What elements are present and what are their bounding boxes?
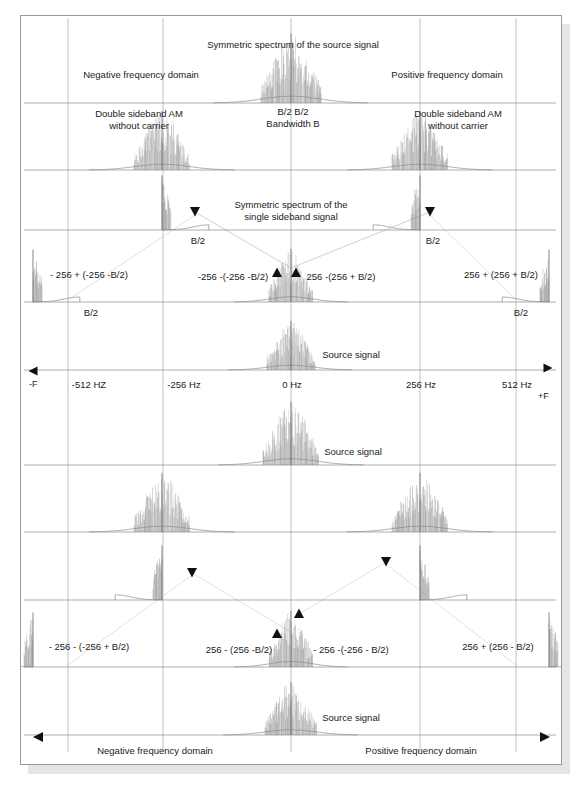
marker-triangle-up-3 <box>291 268 301 278</box>
label-source-signal-lower2: Source signal <box>322 712 380 724</box>
equation-upper-2: -256 -(-256 -B/2) <box>198 271 268 283</box>
axis-arrow-left-mid <box>29 367 38 376</box>
label-positive-frequency-domain-top: Positive frequency domain <box>391 69 502 81</box>
label-source-signal-lower1: Source signal <box>324 446 382 458</box>
label-b2-right-upper: B/2 <box>426 235 440 247</box>
axis-marker-negative-f: -F <box>29 378 38 390</box>
label-ssb-line1: Symmetric spectrum of the <box>235 199 348 211</box>
marker-triangle-down-0 <box>190 207 200 217</box>
label-b2-left-upper: B/2 <box>191 235 205 247</box>
marker-triangle-down-4 <box>187 568 197 578</box>
label-dsb-left-line1: Double sideband AM <box>95 108 183 120</box>
equation-lower-1: - 256 - (-256 + B/2) <box>49 641 130 653</box>
marker-triangle-up-2 <box>272 268 282 278</box>
marker-triangle-up-7 <box>294 609 304 619</box>
marker-triangle-down-1 <box>425 207 435 217</box>
label-dsb-right-line2: without carrier <box>428 120 488 132</box>
axis-tick-512: 512 Hz <box>502 379 532 390</box>
label-negative-frequency-domain-bottom: Negative frequency domain <box>97 745 213 757</box>
axis-tick-minus-256: -256 Hz <box>167 379 200 390</box>
spectrum-figure: Symmetric spectrum of the source signal … <box>20 15 562 765</box>
axis-tick-256: 256 Hz <box>406 379 436 390</box>
label-negative-frequency-domain-top: Negative frequency domain <box>83 69 199 81</box>
label-bandwidth-b: Bandwidth B <box>266 118 319 130</box>
label-b2-right-lower: B/2 <box>514 307 528 319</box>
label-dsb-right-line1: Double sideband AM <box>414 108 502 120</box>
label-b2-left-lower: B/2 <box>84 307 98 319</box>
label-positive-frequency-domain-bottom: Positive frequency domain <box>365 745 476 757</box>
equation-lower-4: 256 + (256 - B/2) <box>462 641 534 653</box>
axis-marker-positive-f: +F <box>538 390 549 402</box>
label-source-signal-mid: Source signal <box>322 349 380 361</box>
axis-arrow-right-bottom <box>540 732 550 742</box>
equation-lower-3: - 256 -(-256 - B/2) <box>313 644 389 656</box>
label-ssb-line2: single sideband signal <box>244 211 337 223</box>
title-symmetric-source-spectrum: Symmetric spectrum of the source signal <box>207 39 379 51</box>
label-b-halves: B/2 B/2 <box>277 106 308 118</box>
axis-tick-minus-512: -512 HZ <box>72 379 106 390</box>
axis-tick-zero: 0 Hz <box>282 379 302 390</box>
marker-triangle-down-5 <box>381 557 391 567</box>
equation-lower-2: 256 - (256 -B/2) <box>206 644 273 656</box>
equation-upper-4: 256 + (256 + B/2) <box>464 269 538 281</box>
equation-upper-1: - 256 + (-256 -B/2) <box>50 269 128 281</box>
axis-arrow-right-mid <box>544 364 553 373</box>
axis-arrow-left-bottom <box>33 732 43 742</box>
label-dsb-left-line2: without carrier <box>109 120 169 132</box>
equation-upper-3: 256 -(256 + B/2) <box>307 271 376 283</box>
marker-triangle-up-6 <box>272 629 282 639</box>
